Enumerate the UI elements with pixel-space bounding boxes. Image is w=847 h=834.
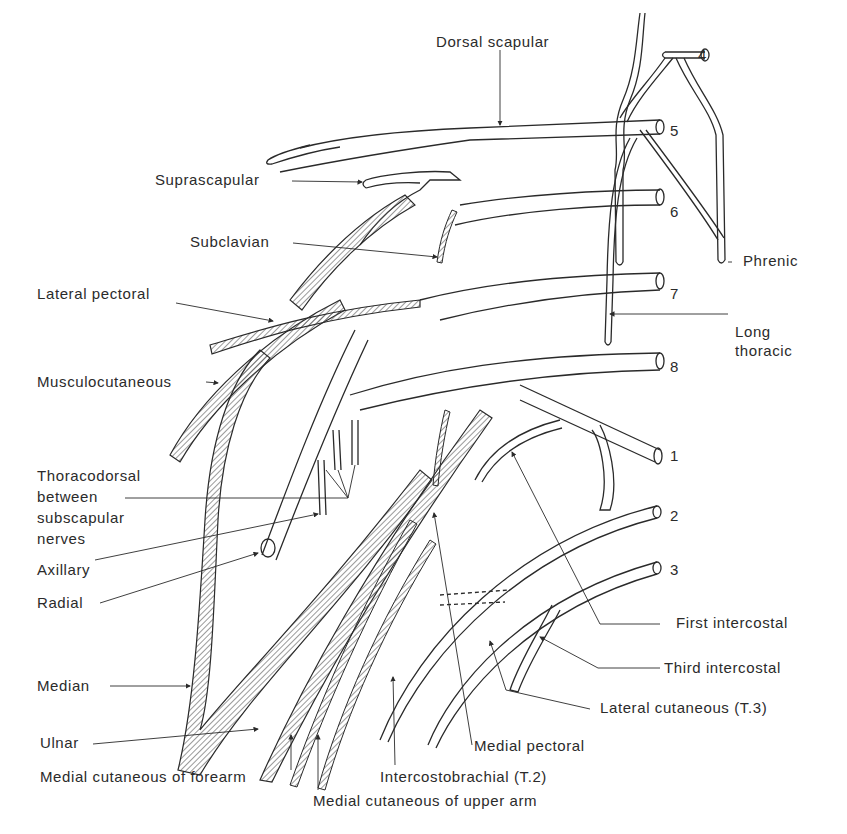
label-thoracodorsal-line1: Thoracodorsal — [37, 467, 141, 485]
root-number-c6: 6 — [670, 203, 678, 220]
musculocutaneous-nerve — [170, 300, 345, 462]
first-intercostal-nerve — [475, 420, 562, 482]
root-number-c7: 7 — [670, 285, 678, 302]
label-phrenic: Phrenic — [743, 252, 798, 270]
root-number-t3: 3 — [670, 561, 678, 578]
label-suprascapular: Suprascapular — [155, 171, 260, 189]
label-median: Median — [37, 677, 90, 695]
root-t3 — [428, 562, 661, 748]
label-lateral-pectoral: Lateral pectoral — [37, 285, 150, 303]
root-c5 — [267, 120, 664, 172]
label-axillary: Axillary — [37, 561, 90, 579]
label-thoracodorsal-line2: between — [37, 488, 98, 506]
label-thoracodorsal-line4: nerves — [37, 530, 86, 548]
label-medial-pectoral: Medial pectoral — [474, 737, 585, 755]
root-c8 — [350, 353, 664, 410]
label-third-intercostal: Third intercostal — [664, 659, 781, 677]
root-number-c5: 5 — [670, 122, 678, 139]
label-dorsal-scapular: Dorsal scapular — [436, 33, 549, 51]
label-musculocutaneous: Musculocutaneous — [37, 373, 172, 391]
phrenic-nerve — [615, 13, 725, 265]
label-radial: Radial — [37, 594, 83, 612]
label-lateral-cutaneous: Lateral cutaneous (T.3) — [600, 699, 767, 717]
label-intercostobrachial: Intercostobrachial (T.2) — [380, 768, 547, 786]
label-thoracodorsal-line3: subscapular — [37, 509, 124, 527]
label-first-intercostal: First intercostal — [676, 614, 788, 632]
root-t1 — [520, 385, 662, 510]
root-number-t1: 1 — [670, 447, 678, 464]
label-ulnar: Ulnar — [40, 734, 79, 752]
subscapular-branches — [318, 420, 358, 515]
label-medial-cutaneous-upper-arm: Medial cutaneous of upper arm — [313, 792, 537, 810]
root-c7 — [420, 273, 664, 320]
root-c6 — [455, 189, 664, 225]
root-number-c8: 8 — [670, 358, 678, 375]
label-long-thoracic-line2: thoracic — [735, 342, 792, 360]
root-number-c4: 4 — [698, 46, 706, 63]
root-number-t2: 2 — [670, 507, 678, 524]
lateral-cord — [290, 195, 415, 310]
subclavian-nerve — [437, 210, 457, 263]
label-subclavian: Subclavian — [190, 233, 269, 251]
label-long-thoracic-line1: Long — [735, 323, 771, 341]
label-medial-cutaneous-forearm: Medial cutaneous of forearm — [40, 768, 246, 786]
